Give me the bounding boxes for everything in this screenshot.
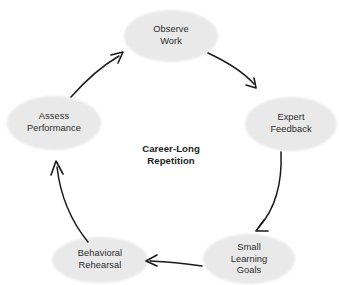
- cycle-diagram: Observe Work Expert Feedback Small Learn…: [0, 0, 339, 285]
- node-ellipse-expert-feedback[interactable]: [245, 97, 337, 151]
- arrow-goals-to-rehearsal: [146, 255, 202, 266]
- node-ellipse-behavioral-rehearsal[interactable]: [52, 237, 148, 283]
- center-label: Career-Long Repetition: [142, 143, 200, 167]
- node-ellipse-assess-performance[interactable]: [7, 96, 101, 150]
- arrow-expert-to-goals: [256, 152, 281, 231]
- node-ellipse-observe-work[interactable]: [124, 10, 218, 62]
- node-ellipse-small-learning-goals[interactable]: [203, 234, 295, 284]
- arrow-assess-to-observe: [71, 52, 123, 97]
- arrow-observe-to-expert: [208, 53, 256, 88]
- arrow-rehearsal-to-assess: [51, 161, 88, 242]
